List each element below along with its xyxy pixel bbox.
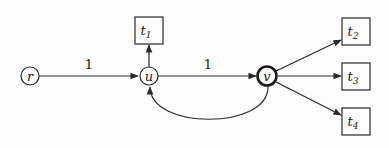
node-r: r <box>21 67 39 85</box>
node-t4: t4 <box>342 108 370 135</box>
edge-label-r-u: 1 <box>85 57 93 72</box>
node-r-label: r <box>27 69 34 84</box>
node-v-label: v <box>263 69 271 84</box>
edge-v-t2 <box>276 40 341 71</box>
node-v: v <box>258 67 277 86</box>
node-t3: t3 <box>342 63 370 90</box>
node-t1: t1 <box>135 17 163 44</box>
node-u-label: u <box>145 69 153 84</box>
node-t2: t2 <box>342 18 370 45</box>
node-u: u <box>140 67 158 85</box>
edge-v-t4 <box>276 82 341 115</box>
graph-diagram: 1 1 r u v t1 t2 t3 t4 <box>0 0 389 148</box>
edge-label-u-v: 1 <box>204 57 212 72</box>
edge-v-u-curved <box>150 87 268 119</box>
